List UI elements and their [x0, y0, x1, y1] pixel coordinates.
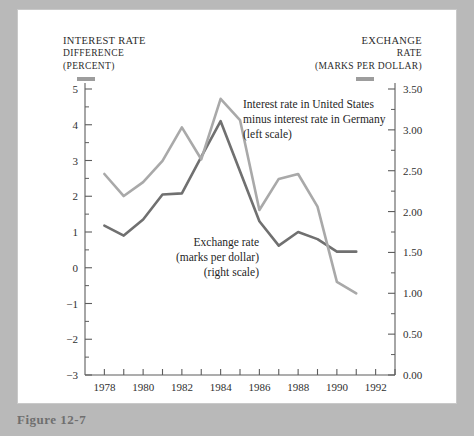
x-tick-label: 1986 — [248, 381, 271, 393]
right-tick-label: 0.00 — [403, 369, 423, 381]
right-tick-label: 2.00 — [403, 206, 423, 218]
left-tick-label: −3 — [66, 369, 78, 381]
right-tick-label: 2.50 — [403, 165, 423, 177]
series-group — [104, 99, 356, 293]
left-tick-label: −1 — [66, 298, 78, 310]
left-tick-label: 3 — [73, 155, 79, 167]
x-tick-label: 1982 — [171, 381, 193, 393]
annotation-exchange-line1: Exchange rate — [194, 236, 259, 249]
figure-frame: INTEREST RATE DIFFERENCE (PERCENT) EXCHA… — [17, 9, 457, 404]
x-tick-label: 1990 — [326, 381, 349, 393]
left-tick-label: 0 — [73, 262, 79, 274]
right-tick-label: 1.50 — [403, 246, 423, 258]
series-exchange-rate — [104, 99, 356, 293]
right-tick-label: 3.00 — [403, 124, 423, 136]
series-interest-rate-difference — [104, 121, 356, 251]
annotation-interest-line3: (left scale) — [243, 128, 292, 141]
figure-caption: Figure 12-7 — [17, 412, 217, 430]
x-tick-label: 1978 — [93, 381, 116, 393]
right-tick-label: 0.50 — [403, 328, 423, 340]
x-tick-label: 1988 — [287, 381, 310, 393]
annotation-interest-line2: minus interest rate in Germany — [243, 113, 386, 126]
right-tick-label: 3.50 — [403, 83, 423, 95]
x-tick-label: 1992 — [365, 381, 387, 393]
x-tick-label: 1984 — [210, 381, 233, 393]
right-tick-label: 1.00 — [403, 287, 423, 299]
left-tick-label: 5 — [73, 83, 79, 95]
left-tick-label: 1 — [73, 226, 79, 238]
x-tick-label: 1980 — [132, 381, 155, 393]
annotation-exchange-line2: (marks per dollar) — [176, 251, 259, 264]
left-tick-label: −2 — [66, 333, 78, 345]
annotation-interest-line1: Interest rate in United States — [243, 98, 374, 110]
left-tick-label: 2 — [73, 190, 79, 202]
left-tick-label: 4 — [73, 119, 79, 131]
annotation-exchange-line3: (right scale) — [204, 266, 259, 279]
chart-plot-area: 543210−1−2−33.503.002.502.001.501.000.50… — [18, 10, 458, 405]
